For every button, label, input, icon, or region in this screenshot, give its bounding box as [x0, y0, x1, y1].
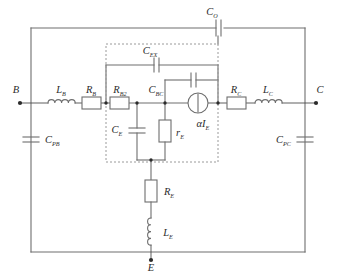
node-junction-cbc	[163, 101, 166, 104]
circuit-diagram: B C E CO CEX LB RB RB2 CBC RC	[0, 0, 338, 273]
label-c-pc: CPC	[276, 134, 292, 147]
resistor-r-e-big	[145, 180, 157, 202]
label-r-e-big: RE	[163, 186, 174, 199]
label-r-b: RB	[85, 84, 96, 97]
node-junction-emitter	[149, 158, 152, 161]
label-c-bc: CBC	[149, 84, 165, 97]
node-junction-cex-left	[104, 101, 107, 104]
label-l-b: LB	[55, 84, 66, 97]
resistor-r-e-small	[159, 120, 171, 142]
node-junction-collector-inner	[216, 101, 219, 104]
label-r-b2: RB2	[112, 84, 126, 97]
resistor-r-b2	[110, 97, 129, 109]
label-current-source: αIE	[197, 118, 210, 131]
terminal-label-c: C	[316, 84, 324, 95]
terminal-label-b: B	[13, 84, 20, 95]
label-c-pb: CPB	[45, 134, 60, 147]
circuit-svg: B C E CO CEX LB RB RB2 CBC RC	[0, 0, 338, 273]
label-c-e: CE	[112, 124, 123, 137]
inductor-l-b	[48, 100, 75, 103]
resistor-r-b	[82, 97, 101, 109]
label-l-e: LE	[162, 227, 173, 240]
label-l-c: LC	[262, 84, 274, 97]
label-c-o: CO	[206, 6, 218, 19]
inductor-l-c	[255, 100, 282, 103]
label-c-ex: CEX	[143, 45, 158, 58]
resistor-r-c	[227, 97, 246, 109]
inductor-l-e	[148, 218, 151, 245]
label-r-c: RC	[230, 84, 242, 97]
terminal-label-e: E	[147, 262, 155, 273]
node-dot-b	[18, 101, 22, 105]
node-dot-c	[314, 101, 318, 105]
label-r-e-small: rE	[176, 127, 184, 140]
node-junction-ce	[135, 101, 138, 104]
